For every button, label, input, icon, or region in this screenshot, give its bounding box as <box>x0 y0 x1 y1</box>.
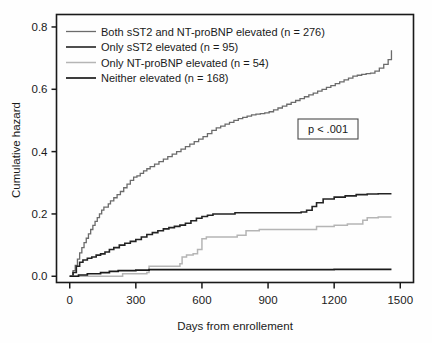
x-tick-label: 1500 <box>387 294 413 306</box>
p-value-text: p < .001 <box>308 123 348 135</box>
cumulative-hazard-chart: 0.00.20.40.60.8 030060090012001500 Both … <box>0 0 432 343</box>
y-tick-label: 0.8 <box>32 21 48 33</box>
y-axis-title: Cumulative hazard <box>10 102 22 198</box>
kaplan-meier-figure: 0.00.20.40.60.8 030060090012001500 Both … <box>0 0 432 343</box>
y-tick-label: 0.6 <box>32 83 48 95</box>
legend-label-1: Only sST2 elevated (n = 95) <box>101 41 238 53</box>
p-value-annotation: p < .001 <box>298 119 358 139</box>
legend-label-3: Neither elevated (n = 168) <box>101 72 229 84</box>
y-tick-label: 0.0 <box>32 270 48 282</box>
x-axis-title: Days from enrollement <box>177 320 293 332</box>
y-tick-label: 0.2 <box>32 208 48 220</box>
x-tick-label: 900 <box>258 294 277 306</box>
x-tick-label: 600 <box>192 294 211 306</box>
legend-label-0: Both sST2 and NT-proBNP elevated (n = 27… <box>101 26 325 38</box>
x-tick-label: 0 <box>67 294 73 306</box>
x-tick-label: 300 <box>126 294 145 306</box>
y-tick-label: 0.4 <box>32 146 49 158</box>
x-tick-label: 1200 <box>321 294 347 306</box>
legend-label-2: Only NT-proBNP elevated (n = 54) <box>101 57 269 69</box>
